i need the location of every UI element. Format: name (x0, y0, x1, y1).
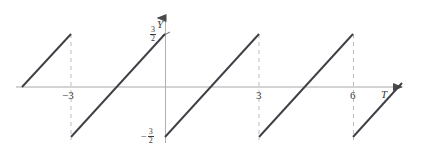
x-tick-label-3: 3 (256, 89, 262, 101)
ramp-segment-4 (353, 83, 402, 137)
fraction-numerator: 3 (148, 128, 154, 136)
plot-canvas (0, 0, 421, 151)
sawtooth-curve (22, 34, 402, 137)
y-axis-label: Y (157, 18, 163, 30)
x-tick-label-minus3: −3 (62, 89, 74, 101)
y-tick-label-three-halves: 3 2 (150, 26, 156, 43)
ramp-segment-0 (22, 34, 71, 87)
fraction-numerator: 3 (150, 26, 156, 34)
fraction-denominator: 2 (148, 137, 154, 145)
fraction-stack: 3 2 (148, 128, 154, 145)
minus-sign: − (141, 132, 147, 142)
sawtooth-wave-figure: Y T 3 2 − 3 2 −3 3 6 (0, 0, 421, 151)
ramp-segment-2 (165, 34, 259, 137)
ramp-segment-3 (259, 34, 353, 137)
fraction-denominator: 2 (150, 35, 156, 43)
t-axis-label: T (381, 88, 387, 100)
x-tick-label-6: 6 (350, 89, 356, 101)
y-tick-label-minus-three-halves: − 3 2 (141, 128, 154, 145)
fraction-stack: 3 2 (150, 26, 156, 43)
ramp-segment-1 (71, 34, 165, 137)
